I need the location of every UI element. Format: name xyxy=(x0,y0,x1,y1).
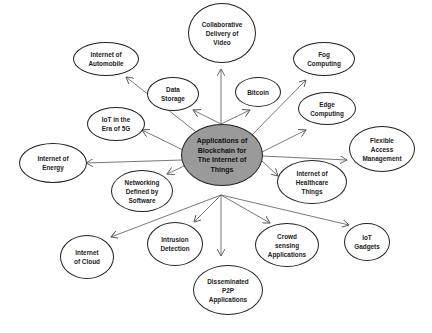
node-data-storage: Data Storage xyxy=(147,77,199,111)
node-label-line: Delivery of xyxy=(202,29,243,38)
node-label-line: of Cloud xyxy=(74,257,100,266)
node-label-line: Collaborative xyxy=(202,20,243,29)
node-label-line: Flexible xyxy=(362,136,401,145)
node-label-line: IoT xyxy=(354,233,380,242)
center-line-4: Things xyxy=(197,165,248,175)
edge-to-data-storage xyxy=(193,110,221,124)
node-internet-of-cloud: Internet of Cloud xyxy=(60,235,114,279)
edge-to-edge-computing xyxy=(262,130,306,152)
node-label-line: Disseminated xyxy=(207,277,249,286)
node-iot-in-the-era-of-5g: IoT in the Era of 5G xyxy=(87,107,145,141)
node-label-line: Video xyxy=(202,38,243,47)
node-label-line: Access xyxy=(362,145,401,154)
node-label-line: Energy xyxy=(37,163,68,172)
node-disseminated-p2p-applications: Disseminated P2P Applications xyxy=(193,265,263,315)
node-label-line: Intrusion xyxy=(160,235,189,244)
edge-to-crowd-sensing xyxy=(221,195,270,223)
node-label-line: Internet xyxy=(74,248,100,257)
node-label-line: Crowd xyxy=(268,232,306,241)
node-label-line: Computing xyxy=(307,59,341,68)
node-bitcoin: Bitcoin xyxy=(235,77,281,107)
node-label-line: Gadgets xyxy=(354,242,380,251)
center-node-applications-of-blockchain: Applications of Blockchain for The Inter… xyxy=(181,124,263,186)
node-label-line: Internet of xyxy=(37,154,68,163)
edge-to-networking-software xyxy=(167,166,184,174)
node-flexible-access-management: Flexible Access Management xyxy=(349,126,415,172)
node-label-line: Fog xyxy=(307,50,341,59)
node-label-line: Computing xyxy=(310,109,344,118)
node-label-line: Networking xyxy=(125,178,160,187)
center-line-2: Blockchain for xyxy=(197,146,248,156)
node-label-line: Bitcoin xyxy=(247,88,269,97)
edge-to-healthcare-things xyxy=(262,161,278,176)
node-internet-of-automobile: Internet of Automobile xyxy=(73,42,139,76)
node-label-line: Management xyxy=(362,154,401,163)
node-iot-gadgets: IoT Gadgets xyxy=(344,223,390,261)
node-label-line: Things xyxy=(296,187,329,196)
node-label-line: Internet of xyxy=(296,169,329,178)
node-label-line: Automobile xyxy=(88,59,123,68)
center-line-3: The Internet of xyxy=(197,155,248,165)
node-fog-computing: Fog Computing xyxy=(293,42,355,76)
node-collaborative-delivery-of-video: Collaborative Delivery of Video xyxy=(188,3,256,63)
node-label-line: Internet of xyxy=(88,50,123,59)
node-internet-of-energy: Internet of Energy xyxy=(19,143,87,183)
node-internet-of-healthcare-things: Internet of Healthcare Things xyxy=(277,160,347,204)
edge-to-bitcoin xyxy=(221,110,250,124)
node-label-line: Edge xyxy=(310,100,344,109)
node-label-line: Applications xyxy=(268,250,306,259)
edge-to-internet-of-energy xyxy=(86,160,182,163)
node-label-line: Era of 5G xyxy=(102,124,130,133)
node-intrusion-detection: Intrusion Detection xyxy=(147,222,203,266)
node-label-line: sensing xyxy=(268,241,306,250)
node-crowd-sensing-applications: Crowd sensing Applications xyxy=(255,223,319,267)
node-label-line: Storage xyxy=(161,94,185,103)
node-label-line: Defined by xyxy=(125,187,160,196)
node-label-line: Healthcare xyxy=(296,178,329,187)
edge-to-intrusion-detection xyxy=(194,195,221,222)
center-line-1: Applications of xyxy=(197,136,248,146)
node-label-line: Software xyxy=(125,196,160,205)
node-label-line: Applications xyxy=(207,295,249,304)
node-edge-computing: Edge Computing xyxy=(298,92,356,125)
edge-to-iot-5g xyxy=(142,130,183,150)
node-label-line: P2P xyxy=(207,286,249,295)
node-networking-defined-by-software: Networking Defined by Software xyxy=(111,170,173,212)
node-label-line: IoT in the xyxy=(102,115,130,124)
node-label-line: Data xyxy=(161,85,185,94)
node-label-line: Detection xyxy=(160,244,189,253)
